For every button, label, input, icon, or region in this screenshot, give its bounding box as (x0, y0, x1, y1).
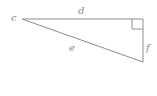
side-e-hypotenuse (22, 19, 143, 62)
side-label-d: d (78, 5, 84, 16)
vertex-label-c: c (11, 12, 17, 23)
right-angle-marker (132, 19, 143, 29)
side-label-e: e (69, 42, 75, 53)
triangle-diagram: c d e f (0, 0, 157, 96)
side-label-f: f (145, 42, 152, 53)
